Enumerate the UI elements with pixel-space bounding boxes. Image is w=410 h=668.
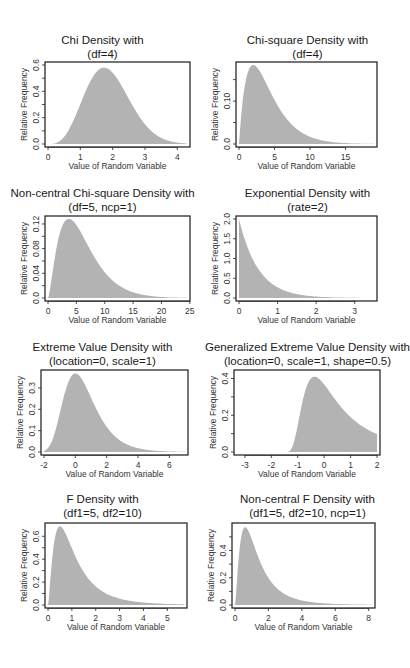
y-tick-label: 0.6 [31, 59, 41, 71]
y-axis: 0.00.20.4 [218, 537, 232, 611]
y-axis: 0.00.51.01.52.0 [222, 213, 236, 304]
density-area [48, 68, 187, 144]
y-axis: 0.00.20.4 [220, 372, 234, 458]
panel-chi: Chi Density with(df=4) 01234Value of Ran… [0, 0, 205, 160]
y-tick-label: 2.0 [222, 213, 232, 225]
y-tick-label: 0.0 [222, 292, 232, 304]
y-tick-label: 0.4 [220, 372, 230, 384]
y-axis-label: Relative Frequency [206, 528, 216, 602]
y-axis-label: Relative Frequency [15, 375, 25, 449]
y-axis: 0.00.10.20.3 [27, 382, 41, 458]
y-tick-label: 0.6 [31, 530, 41, 542]
y-axis-label: Relative Frequency [19, 528, 29, 602]
panel-exponential: Exponential Density with(rate=2) 0123Val… [205, 154, 410, 314]
y-tick-label: 0.2 [218, 572, 228, 584]
y-tick-label: 0.0 [222, 138, 232, 150]
panel-extreme-value: Extreme Value Density with(location=0, s… [0, 308, 205, 468]
density-plot: 0510152025Value of Random Variable0.00.0… [0, 154, 205, 314]
y-tick-label: 0.12 [31, 215, 41, 232]
density-area [239, 65, 374, 144]
panel-noncentral-chisquare: Non-central Chi-square Density with(df=5… [0, 154, 205, 314]
panel-f: F Density with(df1=5, df2=10) 012345Valu… [0, 462, 205, 622]
x-tick-label: 0 [233, 613, 238, 623]
density-plot: 02468Value of Random Variable0.00.20.4Re… [205, 462, 410, 622]
density-area [48, 526, 184, 605]
y-axis-label: Relative Frequency [208, 375, 218, 449]
panel-generalized-extreme-value: Generalized Extreme Value Density with(l… [205, 308, 410, 468]
density-area [237, 377, 377, 452]
density-area [239, 219, 374, 298]
x-axis-label: Value of Random Variable [255, 622, 353, 632]
y-tick-label: 0.10 [222, 93, 232, 110]
x-axis: 02468 [233, 608, 372, 623]
y-tick-label: 0.0 [31, 292, 41, 304]
y-tick-label: 0.2 [31, 111, 41, 123]
y-axis: 0.00.040.080.12 [31, 215, 45, 304]
x-tick-label: 5 [165, 613, 170, 623]
y-tick-label: 0.4 [218, 544, 228, 556]
density-area [48, 219, 187, 298]
y-tick-label: 0.0 [27, 446, 37, 458]
y-tick-label: 0.0 [220, 446, 230, 458]
y-tick-label: 0.2 [220, 409, 230, 421]
density-plot: -3-2-1012Value of Random Variable0.00.20… [205, 308, 410, 468]
panel-noncentral-f: Non-central F Density with(df1=5, df2=10… [205, 462, 410, 622]
density-plot: 012345Value of Random Variable0.00.20.40… [0, 462, 205, 622]
y-tick-label: 0.3 [27, 382, 37, 394]
y-tick-label: 0.04 [31, 265, 41, 282]
y-tick-label: 1.0 [222, 252, 232, 264]
y-tick-label: 0.2 [31, 576, 41, 588]
y-tick-label: 0.0 [218, 599, 228, 611]
x-tick-label: 8 [366, 613, 371, 623]
x-axis-label: Value of Random Variable [67, 622, 165, 632]
y-axis: 0.00.20.40.6 [31, 59, 45, 150]
density-plot: 0123Value of Random Variable0.00.51.01.5… [205, 154, 410, 314]
density-plot: 01234Value of Random Variable0.00.20.40.… [0, 0, 205, 160]
y-tick-label: 0.4 [31, 85, 41, 97]
y-tick-label: 1.5 [222, 233, 232, 245]
y-axis-label: Relative Frequency [19, 221, 29, 295]
y-axis-label: Relative Frequency [210, 221, 220, 295]
density-area [235, 527, 372, 605]
y-tick-label: 0.08 [31, 240, 41, 257]
y-axis-label: Relative Frequency [210, 67, 220, 141]
y-tick-label: 0.0 [31, 138, 41, 150]
y-tick-label: 0.4 [31, 553, 41, 565]
panel-chisquare: Chi-square Density with(df=4) 051015Valu… [205, 0, 410, 160]
y-tick-label: 0.5 [222, 272, 232, 284]
y-axis-label: Relative Frequency [19, 67, 29, 141]
x-axis: 012345 [46, 608, 170, 623]
y-axis: 0.00.20.40.6 [31, 530, 45, 611]
y-tick-label: 0.0 [31, 599, 41, 611]
y-axis: 0.00.10 [222, 80, 236, 150]
density-plot: 051015Value of Random Variable0.00.10Rel… [205, 0, 410, 160]
x-tick-label: 0 [46, 613, 51, 623]
y-tick-label: 0.1 [27, 424, 37, 436]
density-plot: -20246Value of Random Variable0.00.10.20… [0, 308, 205, 468]
density-area [44, 374, 185, 453]
y-tick-label: 0.2 [27, 403, 37, 415]
